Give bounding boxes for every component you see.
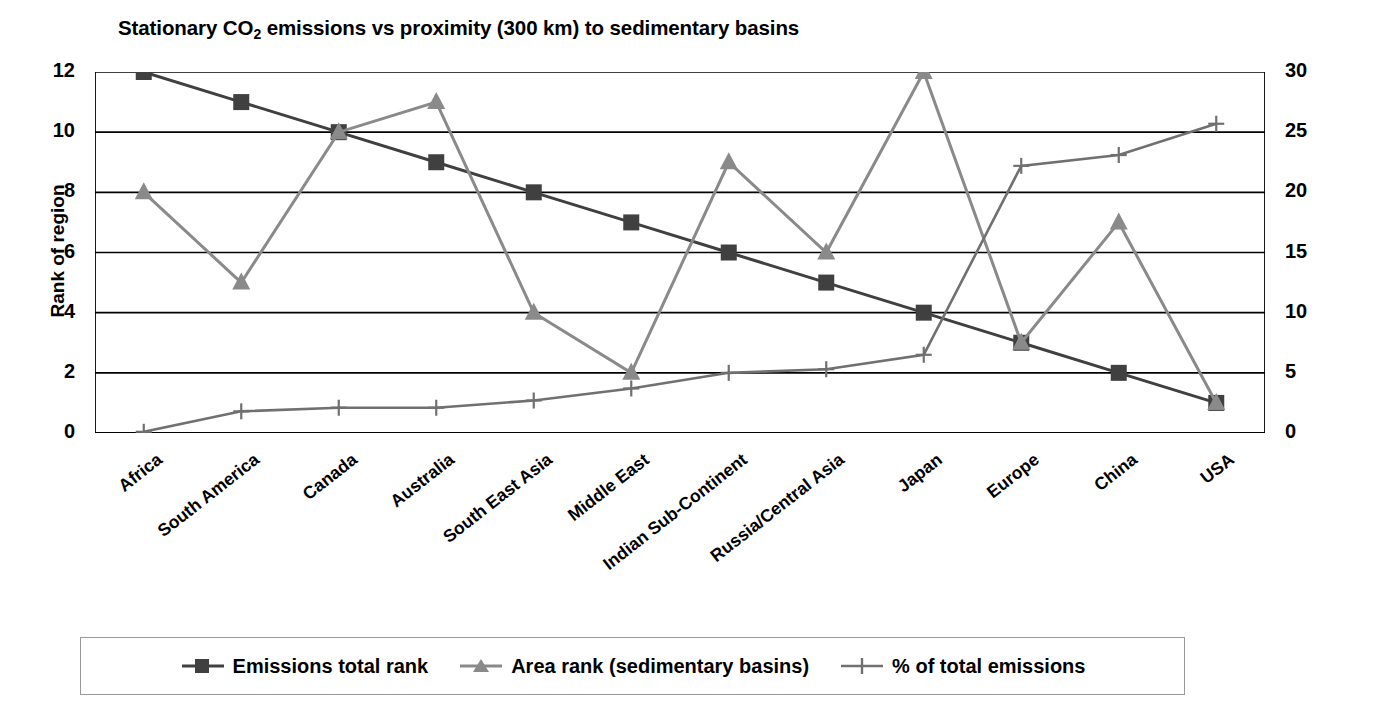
triangle-marker-icon xyxy=(915,72,933,79)
square-marker-icon xyxy=(623,214,639,230)
y-tick-label-right: 20 xyxy=(1285,179,1333,202)
plus-marker-icon xyxy=(839,656,885,676)
legend-item[interactable]: Area rank (sedimentary basins) xyxy=(458,655,809,678)
square-marker-icon xyxy=(233,94,249,110)
x-tick-label: USA xyxy=(1037,449,1239,613)
series-line xyxy=(144,72,1217,403)
square-marker-icon xyxy=(1111,365,1127,381)
y-tick-label-right: 10 xyxy=(1285,300,1333,323)
legend-label: Area rank (sedimentary basins) xyxy=(511,655,809,678)
x-tick-label: South America xyxy=(62,449,264,613)
triangle-marker-icon xyxy=(1110,212,1128,229)
square-marker-icon xyxy=(721,245,737,261)
series-3 xyxy=(136,116,1225,433)
plot-area xyxy=(95,72,1265,433)
y-tick-label-left: 10 xyxy=(27,119,75,142)
y-tick-label-right: 25 xyxy=(1285,119,1333,142)
legend-item[interactable]: Emissions total rank xyxy=(180,655,429,678)
series-2 xyxy=(135,72,1226,410)
triangle-marker-icon xyxy=(622,363,640,380)
y-tick-label-left: 12 xyxy=(27,59,75,82)
x-tick-label: Australia xyxy=(257,449,459,613)
square-marker-icon xyxy=(428,154,444,170)
chart-legend: Emissions total rankArea rank (sedimenta… xyxy=(80,637,1185,695)
x-tick-label: Canada xyxy=(159,449,361,613)
chart-title-subscript: 2 xyxy=(253,26,261,42)
triangle-marker-icon xyxy=(427,92,445,109)
square-marker-icon xyxy=(195,659,209,673)
chart-title: Stationary CO2 emissions vs proximity (3… xyxy=(118,16,799,40)
chart-title-after: emissions vs proximity (300 km) to sedim… xyxy=(261,16,799,39)
x-tick-label: Russia/Central Asia xyxy=(647,449,849,613)
triangle-marker-icon xyxy=(135,182,153,199)
x-tick-label: Japan xyxy=(744,449,946,613)
y-tick-label-left: 6 xyxy=(27,240,75,263)
x-tick-label: Middle East xyxy=(452,449,654,613)
triangle-marker-icon xyxy=(525,303,543,320)
square-marker-icon xyxy=(526,184,542,200)
series-1 xyxy=(136,72,1225,411)
y-tick-label-right: 15 xyxy=(1285,240,1333,263)
legend-item[interactable]: % of total emissions xyxy=(839,655,1085,678)
chart-root: Stationary CO2 emissions vs proximity (3… xyxy=(0,0,1373,712)
square-marker-icon xyxy=(136,72,152,80)
x-tick-label: South East Asia xyxy=(354,449,556,613)
square-marker-icon xyxy=(180,656,226,676)
y-tick-label-right: 30 xyxy=(1285,59,1333,82)
y-tick-label-left: 8 xyxy=(27,179,75,202)
plot-svg xyxy=(95,72,1265,433)
triangle-marker-icon xyxy=(720,152,738,169)
legend-label: % of total emissions xyxy=(892,655,1085,678)
legend-label: Emissions total rank xyxy=(233,655,429,678)
square-marker-icon xyxy=(916,305,932,321)
x-tick-label: Indian Sub-Continent xyxy=(549,449,751,613)
square-marker-icon xyxy=(818,275,834,291)
x-tick-label: China xyxy=(939,449,1141,613)
x-tick-label: Europe xyxy=(842,449,1044,613)
y-tick-label-left: 0 xyxy=(27,420,75,443)
series-line xyxy=(144,124,1217,432)
triangle-marker-icon xyxy=(458,656,504,676)
y-tick-label-left: 2 xyxy=(27,360,75,383)
chart-title-before: Stationary CO xyxy=(118,16,253,39)
y-tick-label-right: 5 xyxy=(1285,360,1333,383)
y-tick-label-right: 0 xyxy=(1285,420,1333,443)
y-tick-label-left: 4 xyxy=(27,300,75,323)
